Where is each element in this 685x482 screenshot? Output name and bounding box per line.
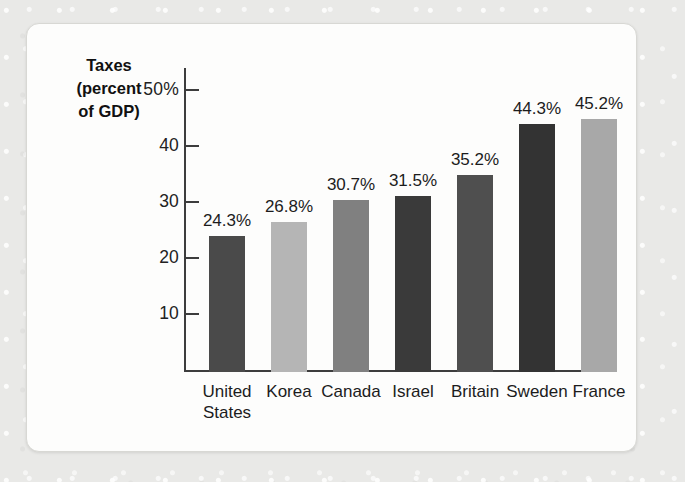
y-axis-title-line-1: Taxes — [39, 54, 179, 77]
bar-value-label: 26.8% — [254, 198, 324, 215]
y-axis-tick — [186, 201, 199, 203]
y-axis-tick-label: 30 — [115, 193, 179, 211]
bar-value-label: 31.5% — [378, 172, 448, 189]
bar — [519, 124, 555, 372]
y-axis-tick — [186, 89, 199, 91]
y-axis-tick-label-wrap: 20 — [101, 249, 179, 267]
bar — [333, 200, 369, 372]
bar-value-label: 45.2% — [564, 95, 634, 112]
bar — [581, 119, 617, 372]
x-axis-category-label: Sweden — [505, 382, 569, 403]
x-axis-category-label: Britain — [443, 382, 507, 403]
y-axis-tick-label-wrap: 40 — [101, 137, 179, 155]
y-axis-tick-label-wrap: 50% — [101, 81, 179, 99]
y-axis-tick-label-wrap: 10 — [101, 305, 179, 323]
bar — [209, 236, 245, 372]
x-axis-category-label: United States — [195, 382, 259, 423]
y-axis-tick — [186, 145, 199, 147]
x-axis-category-label: France — [567, 382, 631, 403]
y-axis-tick-label: 20 — [115, 249, 179, 267]
y-axis-tick-label: 40 — [115, 137, 179, 155]
x-axis-category-label: Israel — [381, 382, 445, 403]
bar — [457, 175, 493, 372]
bar — [271, 222, 307, 372]
y-axis-title-line-3: of GDP) — [39, 100, 179, 123]
bar-chart: Taxes (percent of GDP) 50%40302010 24.3%… — [27, 24, 638, 453]
bar-value-label: 24.3% — [192, 212, 262, 229]
bar-value-label: 35.2% — [440, 151, 510, 168]
x-axis-category-label: Canada — [319, 382, 383, 403]
y-axis-tick-label: 50% — [115, 81, 179, 99]
y-axis-tick — [186, 257, 199, 259]
bar-value-label: 44.3% — [502, 100, 572, 117]
x-axis-category-label: Korea — [257, 382, 321, 403]
y-axis-tick-label-wrap: 30 — [101, 193, 179, 211]
bar-value-label: 30.7% — [316, 176, 386, 193]
chart-card: Taxes (percent of GDP) 50%40302010 24.3%… — [26, 23, 637, 452]
y-axis-line — [184, 68, 186, 372]
bar — [395, 196, 431, 372]
y-axis-tick-label: 10 — [115, 305, 179, 323]
y-axis-tick — [186, 313, 199, 315]
